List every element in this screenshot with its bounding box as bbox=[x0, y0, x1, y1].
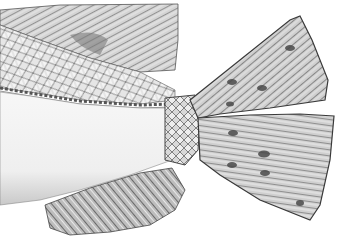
caudal-fin-lower-lobe bbox=[198, 114, 334, 220]
caudal-fin-upper-lobe bbox=[190, 16, 328, 118]
fish-illustration-svg bbox=[0, 0, 342, 240]
fish-tail-illustration bbox=[0, 0, 342, 240]
